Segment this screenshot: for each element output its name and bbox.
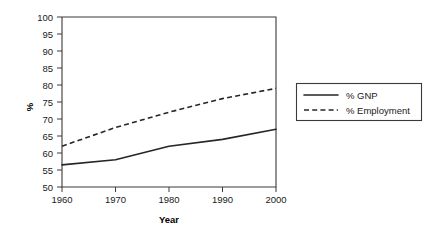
y-tick-label: 95 bbox=[42, 29, 53, 40]
y-tick-label: 100 bbox=[37, 12, 53, 23]
y-tick-label: 85 bbox=[42, 63, 53, 74]
chart-figure: 100 95 90 85 80 75 70 65 60 55 50 % 1960… bbox=[0, 0, 442, 237]
series-line-employment bbox=[62, 88, 276, 146]
y-tick-label: 60 bbox=[42, 148, 53, 159]
y-tick-label: 65 bbox=[42, 131, 53, 142]
line-chart-svg: 100 95 90 85 80 75 70 65 60 55 50 % 1960… bbox=[0, 0, 442, 237]
x-axis-ticks bbox=[62, 187, 276, 192]
legend-label-employment: % Employment bbox=[346, 105, 410, 116]
y-tick-label: 55 bbox=[42, 165, 53, 176]
y-axis-ticks bbox=[57, 17, 62, 187]
x-tick-label: 1990 bbox=[212, 194, 233, 205]
x-axis-tick-labels: 1960 1970 1980 1990 2000 bbox=[51, 194, 286, 205]
y-tick-label: 80 bbox=[42, 80, 53, 91]
y-tick-label: 70 bbox=[42, 114, 53, 125]
legend-label-gnp: % GNP bbox=[346, 90, 378, 101]
x-axis-title: Year bbox=[159, 214, 179, 225]
y-axis-tick-labels: 100 95 90 85 80 75 70 65 60 55 50 bbox=[37, 12, 53, 193]
y-tick-label: 50 bbox=[42, 182, 53, 193]
x-tick-label: 2000 bbox=[265, 194, 286, 205]
y-axis-title: % bbox=[24, 102, 35, 111]
x-tick-label: 1980 bbox=[158, 194, 179, 205]
x-tick-label: 1970 bbox=[105, 194, 126, 205]
y-tick-label: 75 bbox=[42, 97, 53, 108]
y-tick-label: 90 bbox=[42, 46, 53, 57]
x-tick-label: 1960 bbox=[51, 194, 72, 205]
legend: % GNP % Employment bbox=[297, 84, 422, 121]
